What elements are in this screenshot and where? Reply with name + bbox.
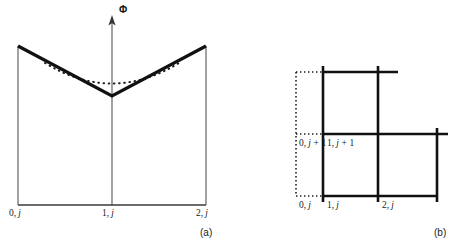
node-0-jplus1-suffix: + 1 xyxy=(311,138,326,148)
node-2-j-label-b: 2, j xyxy=(382,200,394,210)
node-0-j-sub: j xyxy=(18,208,21,218)
panel-b-graphic xyxy=(234,0,468,249)
panel-b-caption: (b) xyxy=(434,227,446,238)
phi-axis-label: Φ xyxy=(119,4,127,15)
node-1-j-label-a: 1, j xyxy=(102,208,114,218)
node-0-j-sub-b: j xyxy=(308,200,311,210)
node-1-jplus1-suffix: + 1 xyxy=(339,138,354,148)
node-1-j-label-b: 1, j xyxy=(327,200,339,210)
panel-a-caption: (a) xyxy=(200,227,212,238)
node-1-jplus1-label: 1, j + 1 xyxy=(327,138,354,148)
solid-grid xyxy=(323,66,448,202)
node-2-j-sub-b: j xyxy=(391,200,394,210)
node-0-j-label-a: 0, j xyxy=(9,208,21,218)
node-1-j-sub-b: j xyxy=(336,200,339,210)
node-0-jplus1-label: 0, j + 1 xyxy=(299,138,326,148)
ghost-cell-dotted xyxy=(296,72,323,196)
node-0-j-label-b: 0, j xyxy=(299,200,311,210)
node-1-j-sub: j xyxy=(111,208,114,218)
phi-axis xyxy=(108,15,115,205)
node-2-j-sub: j xyxy=(205,208,208,218)
node-2-j-label-a: 2, j xyxy=(196,208,208,218)
figure-container: Φ 0, j 1, j 2, j (a) xyxy=(0,0,468,249)
